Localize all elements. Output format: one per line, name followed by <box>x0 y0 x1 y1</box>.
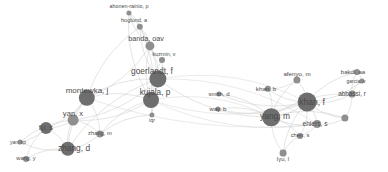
network-edge <box>151 100 307 114</box>
network-edge <box>151 97 271 117</box>
network-node-fu-s[interactable] <box>40 122 52 134</box>
network-edge <box>158 79 271 117</box>
network-edge <box>87 27 140 98</box>
network-node-yan-x[interactable] <box>68 115 79 126</box>
network-edge <box>158 79 317 124</box>
network-node-yan-xp[interactable] <box>18 140 23 145</box>
network-edge <box>87 98 317 127</box>
network-edge <box>271 111 345 118</box>
network-node-wang-y[interactable] <box>23 156 29 162</box>
network-node-kuzmin-v[interactable] <box>159 57 165 63</box>
network-node-lyu-l[interactable] <box>280 150 287 157</box>
network-node-chen-s[interactable] <box>297 133 303 139</box>
network-edge <box>87 94 151 100</box>
network-node-ehlers-s[interactable] <box>313 120 321 128</box>
network-node-abbassi-r[interactable] <box>349 91 356 98</box>
network-edges-layer <box>0 0 388 172</box>
network-edge <box>268 80 297 89</box>
network-node-yang-m[interactable] <box>262 108 280 126</box>
network-edge <box>100 100 151 134</box>
network-node-kujala-p[interactable] <box>143 92 159 108</box>
network-graph-canvas[interactable]: ahonen-rainio, phoglund, abanda, oavkuzm… <box>0 0 388 172</box>
network-node-bakdi-aa[interactable] <box>354 69 360 75</box>
network-edge <box>87 46 150 98</box>
network-node-khan-f[interactable] <box>298 93 317 112</box>
